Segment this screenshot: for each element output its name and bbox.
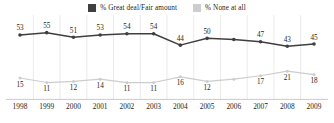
data-point: [285, 44, 289, 48]
data-label: 44: [177, 35, 185, 43]
data-label: 45: [310, 34, 318, 42]
data-label: 55: [43, 22, 51, 30]
legend-label-none-at-all: % None at all: [205, 4, 246, 12]
data-point: [206, 80, 209, 83]
x-axis-tick-2005: 2005: [200, 102, 215, 112]
data-label: 12: [203, 84, 211, 92]
x-axis-tick-2009: 2009: [307, 102, 322, 112]
data-label: 47: [257, 31, 265, 39]
x-axis-tick-2000: 2000: [66, 102, 81, 112]
x-axis-tick-2007: 2007: [253, 102, 268, 112]
data-point: [125, 32, 129, 36]
data-label: 16: [177, 79, 185, 87]
x-axis-tick-2004: 2004: [173, 102, 188, 112]
x-axis-tick-2003: 2003: [146, 102, 161, 112]
data-label: 15: [16, 81, 24, 89]
data-label: 53: [16, 24, 24, 32]
chart-container: % Great deal/Fair amount % None at all 1…: [0, 0, 334, 123]
data-point: [312, 42, 316, 46]
plot-area: 1511121411111612172118535551535454445047…: [0, 15, 334, 100]
data-label: 54: [150, 23, 158, 31]
x-axis-labels: 1998199920002001200220032004200520062007…: [0, 102, 334, 123]
data-label: 43: [284, 36, 292, 44]
x-axis-tick-1999: 1999: [39, 102, 54, 112]
data-point: [98, 33, 102, 37]
data-point: [152, 81, 155, 84]
data-label: 11: [150, 85, 157, 93]
data-label: 12: [70, 84, 78, 92]
data-label: 17: [257, 78, 265, 86]
legend-swatch-none-at-all: [193, 4, 201, 12]
data-point: [286, 70, 289, 73]
line-chart-svg: 1511121411111612172118535551535454445047…: [0, 15, 334, 100]
data-label: 11: [123, 85, 130, 93]
data-point: [313, 73, 316, 76]
x-axis-tick-1998: 1998: [13, 102, 28, 112]
data-point: [232, 78, 235, 81]
data-point: [72, 80, 75, 83]
data-label: 21: [284, 74, 292, 82]
data-point: [179, 43, 183, 47]
legend-swatch-great-deal: [88, 4, 96, 12]
legend-label-great-deal: % Great deal/Fair amount: [100, 4, 177, 12]
data-point: [45, 31, 49, 35]
x-axis-tick-2006: 2006: [226, 102, 241, 112]
x-axis-tick-2002: 2002: [120, 102, 135, 112]
data-point: [99, 78, 102, 81]
data-label: 18: [310, 77, 318, 85]
data-point: [45, 81, 48, 84]
data-point: [125, 81, 128, 84]
data-label: 53: [97, 24, 105, 32]
data-point: [18, 33, 22, 37]
data-point: [19, 77, 22, 80]
legend-item-none-at-all: % None at all: [193, 4, 246, 12]
data-point: [232, 38, 236, 42]
data-point: [179, 75, 182, 78]
data-label: 50: [203, 28, 211, 36]
data-label: 11: [43, 85, 50, 93]
legend-item-great-deal: % Great deal/Fair amount: [88, 4, 177, 12]
chart-legend: % Great deal/Fair amount % None at all: [0, 0, 334, 15]
data-point: [259, 74, 262, 77]
data-point: [205, 37, 209, 41]
data-point: [152, 32, 156, 36]
data-label: 54: [123, 23, 131, 31]
x-axis-tick-2008: 2008: [280, 102, 295, 112]
data-point: [259, 40, 263, 44]
data-label: 14: [97, 82, 105, 90]
x-axis-tick-2001: 2001: [93, 102, 108, 112]
data-point: [72, 35, 76, 39]
data-label: 51: [70, 27, 78, 35]
